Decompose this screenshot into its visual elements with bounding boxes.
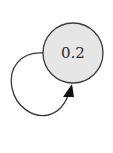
arrowhead-icon — [63, 84, 74, 97]
state-node-label: 0.2 — [61, 44, 85, 62]
diagram-canvas: 0.2 — [0, 0, 113, 153]
state-node: 0.2 — [43, 23, 103, 83]
